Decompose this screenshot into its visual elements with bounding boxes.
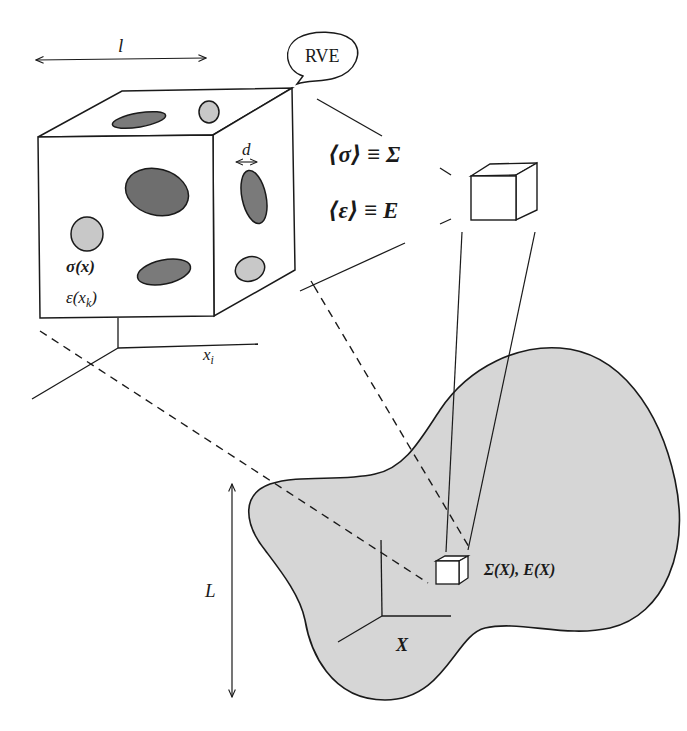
micro-stress-label: σ(x)	[66, 258, 95, 275]
inclusion-size-label: d	[242, 141, 251, 158]
avg-stress-label: ⟨σ⟩ ≡ Σ	[328, 143, 400, 166]
macro-coord-label: X	[396, 636, 408, 654]
macro-point-cube	[436, 556, 468, 584]
rve-to-point-lines	[300, 99, 451, 291]
homogenized-cube	[471, 163, 537, 220]
micro-coord-label: xi	[203, 346, 214, 367]
macro-body	[249, 348, 680, 700]
inclusion-front-light	[71, 217, 103, 251]
rve-length-label: l	[118, 36, 123, 55]
micro-coord-sub: i	[211, 353, 214, 367]
micro-strain-label: ε(xk)	[66, 289, 97, 310]
macro-fields-label: Σ(X), E(X)	[484, 562, 555, 578]
micro-strain-base: ε(x	[66, 288, 86, 307]
rve-bubble-label: RVE	[305, 47, 340, 65]
micro-strain-close: )	[91, 288, 97, 307]
rve-cube-front-face	[38, 135, 214, 318]
inclusion-top-light	[199, 101, 219, 123]
avg-strain-label: ⟨ε⟩ ≡ E	[328, 199, 398, 222]
macro-length-label: L	[205, 581, 216, 600]
micro-coord-base: x	[203, 345, 211, 364]
rve-length-arrow	[36, 58, 206, 60]
micro-axes	[32, 318, 258, 399]
rve-cube	[38, 88, 295, 318]
rve-diagram	[0, 0, 687, 731]
